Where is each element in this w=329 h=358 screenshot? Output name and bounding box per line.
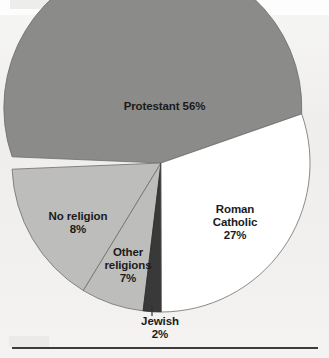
pie-label-other-religions-value: 7% <box>90 272 166 285</box>
scan-smudge-bottom-left <box>9 336 49 347</box>
pie-label-jewish-value: 2% <box>112 328 208 341</box>
pie-label-other-religions: Other religions 7% <box>90 246 166 285</box>
pie-label-roman-catholic: Roman Catholic 27% <box>186 203 284 242</box>
pie-label-protestant: Protestant 56% <box>0 100 329 113</box>
pie-label-roman-catholic-line1: Roman <box>186 203 284 216</box>
pie-label-no-religion-value: 8% <box>26 223 130 236</box>
pie-label-other-religions-line2: religions <box>90 259 166 272</box>
pie-label-no-religion: No religion 8% <box>26 210 130 236</box>
pie-label-protestant-line1: Protestant 56% <box>0 100 329 113</box>
pie-label-jewish-line1: Jewish <box>112 315 208 328</box>
footer-rule <box>12 347 318 349</box>
pie-chart: Protestant 56% Roman Catholic 27% No rel… <box>0 0 329 358</box>
pie-label-other-religions-line1: Other <box>90 246 166 259</box>
page-background: Protestant 56% Roman Catholic 27% No rel… <box>0 0 329 358</box>
pie-label-roman-catholic-value: 27% <box>186 229 284 242</box>
pie-label-roman-catholic-line2: Catholic <box>186 216 284 229</box>
pie-label-no-religion-line1: No religion <box>26 210 130 223</box>
pie-chart-svg <box>0 0 329 358</box>
pie-label-jewish: Jewish 2% <box>112 315 208 341</box>
